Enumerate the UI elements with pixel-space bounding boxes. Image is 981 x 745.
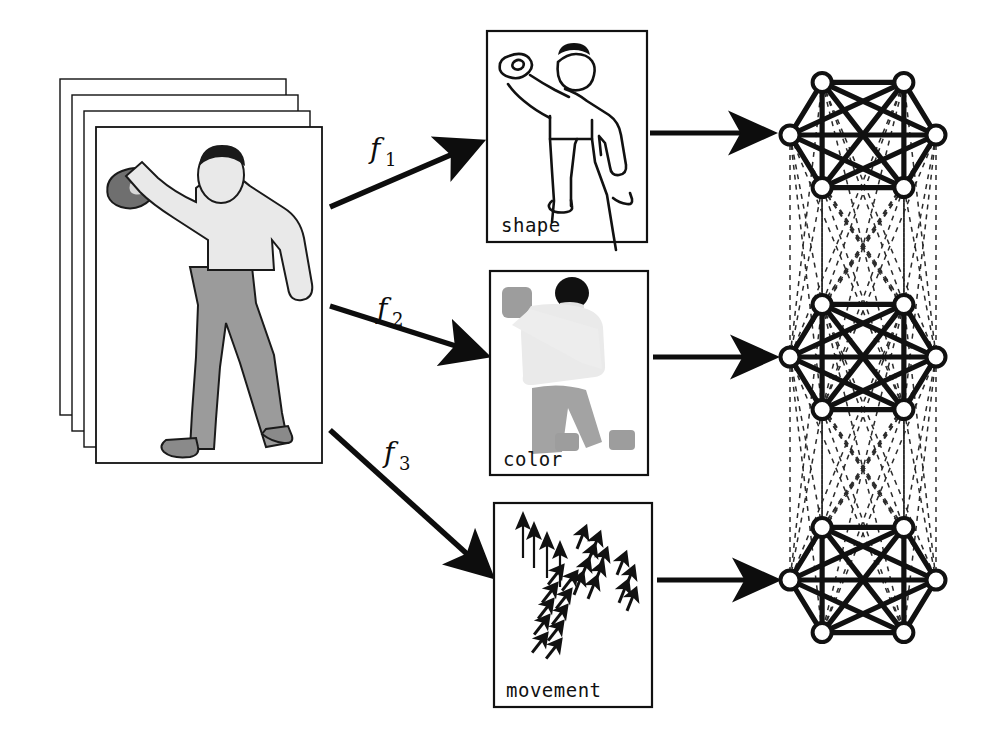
movement-graph[interactable] [781,518,946,642]
graph-node[interactable] [894,518,913,537]
graph-node[interactable] [927,571,946,590]
graph-node[interactable] [813,295,832,314]
graph-node[interactable] [781,571,800,590]
graph-node[interactable] [813,623,832,642]
graph-node[interactable] [894,178,913,197]
graph-node[interactable] [894,295,913,314]
graph-node[interactable] [781,348,800,367]
graph-node[interactable] [894,73,913,92]
graph-node[interactable] [813,73,832,92]
graph-node[interactable] [894,400,913,419]
shape-graph[interactable] [781,73,946,197]
graph-node[interactable] [781,126,800,145]
figure-canvas: f 1 f 2 f 3 shape [0,0,981,745]
graph-node[interactable] [927,348,946,367]
color-graph[interactable] [781,295,946,419]
graph-clusters[interactable] [0,0,981,745]
graph-node[interactable] [813,400,832,419]
graph-node[interactable] [813,518,832,537]
graph-node[interactable] [927,126,946,145]
graph-node[interactable] [813,178,832,197]
graph-node[interactable] [894,623,913,642]
